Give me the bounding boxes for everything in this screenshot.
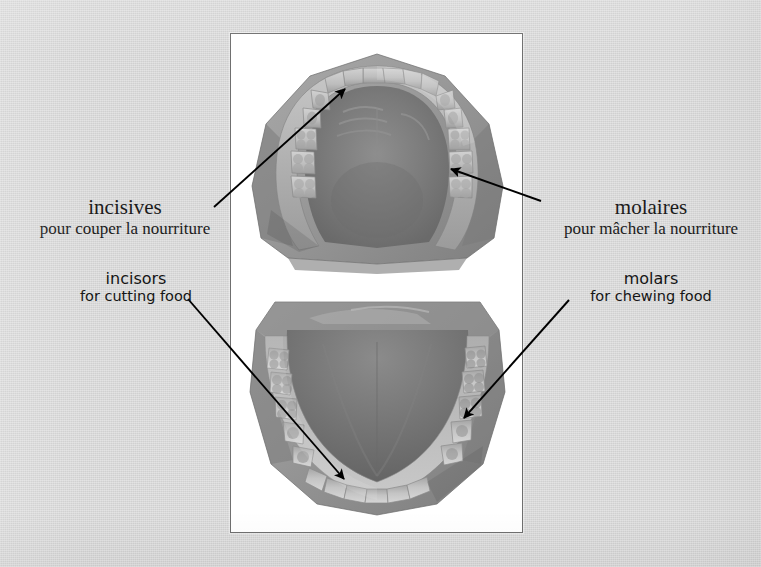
label-incisors-term: incisors [36,270,236,288]
upper-molar-cusp [305,188,315,198]
label-molars-term: molars [553,270,749,288]
upper-molar-cusp [304,154,314,164]
label-incisors-english: incisors for cutting food [36,270,236,304]
lower-molar-cusp [466,350,475,359]
upper-jaw-illustration [231,50,523,278]
upper-premolar-cusp [315,94,325,106]
lower-premolar-cusp [456,425,468,437]
label-incisors-description: for cutting food [36,288,236,305]
palate-depth-shadow [331,162,423,238]
upper-molar-cusp [461,179,471,189]
label-incisives-term: incisives [18,196,232,219]
upper-molar-cusp [462,154,472,164]
upper-molar-cusp [451,188,461,198]
lower-molar-cusp [476,349,485,358]
upper-molar-cusp [297,131,306,140]
label-molars-description: for chewing food [553,288,749,305]
upper-lateral-incisor [343,68,363,86]
label-molars-english: molars for chewing food [553,270,749,304]
upper-molar-cusp [451,154,461,164]
lower-molar-cusp [471,407,482,418]
upper-molar-cusp [307,140,316,149]
anatomy-plate-page: incisives pour couper la nourriture mola… [0,0,761,567]
upper-molar-cusp [293,154,303,164]
upper-molar-cusp [304,163,314,173]
lower-molar-cusp [460,408,471,419]
upper-molar-cusp [451,179,461,189]
upper-molar-cusp [305,179,315,189]
upper-molar-cusp [297,140,306,149]
label-incisives-description: pour couper la nourriture [18,219,232,239]
upper-molar-cusp [307,131,316,140]
label-molaires-french: molaires pour mâcher la nourriture [545,196,757,238]
lower-molar-cusp [474,382,484,392]
upper-molar-cusp [451,131,460,140]
upper-premolar-cusp [307,112,317,125]
upper-molar-cusp [461,188,471,198]
label-molaires-description: pour mâcher la nourriture [545,219,757,239]
label-molaires-term: molaires [545,196,757,219]
label-incisives-french: incisives pour couper la nourriture [18,196,232,238]
photo-frame [230,33,523,533]
lower-molar-cusp [464,374,474,384]
upper-molar-cusp [293,163,303,173]
upper-molar-cusp [294,179,304,189]
upper-molar-cusp [462,163,472,173]
lower-molar-cusp [466,359,475,368]
upper-molar-cusp [451,163,461,173]
upper-molar-cusp [451,140,460,149]
lower-premolar-cusp [446,448,458,460]
upper-molar-cusp [294,188,304,198]
lower-jaw-illustration [231,296,523,524]
upper-jaw-dental-cast [231,50,523,278]
lower-molar-cusp [474,373,484,383]
lower-molar-cusp [464,383,474,393]
lower-jaw-dental-cast [231,296,523,524]
lower-molar-cusp [476,358,485,367]
